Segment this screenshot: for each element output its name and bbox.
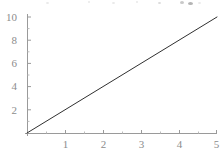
- x-tick-label-5: 5: [207, 139, 222, 150]
- scan-artifact: [88, 1, 90, 3]
- data-line-series-0: [27, 17, 217, 133]
- x-tick-label-2: 2: [94, 139, 113, 150]
- scan-artifact: [136, 1, 138, 3]
- y-tick-label-10: 10: [0, 12, 17, 23]
- scan-artifact: [180, 1, 184, 4]
- plot-canvas: [0, 0, 222, 152]
- x-tick-label-4: 4: [170, 139, 189, 150]
- scan-artifact: [158, 2, 161, 4]
- scan-artifact: [46, 2, 49, 4]
- y-axis-ticks: [28, 17, 32, 121]
- scan-artifact: [112, 2, 115, 4]
- x-tick-label-1: 1: [56, 139, 75, 150]
- plot-figure: 10 8 6 4 2 1 2 3 4 5: [0, 0, 222, 152]
- scan-artifact: [198, 2, 201, 4]
- scan-artifact: [188, 2, 193, 5]
- x-tick-label-3: 3: [132, 139, 151, 150]
- axes-group: [25, 14, 217, 136]
- y-tick-label-2: 2: [0, 105, 17, 116]
- y-tick-label-8: 8: [0, 35, 17, 46]
- y-tick-label-6: 6: [0, 58, 17, 69]
- y-tick-label-4: 4: [0, 81, 17, 92]
- x-axis-ticks: [47, 130, 217, 134]
